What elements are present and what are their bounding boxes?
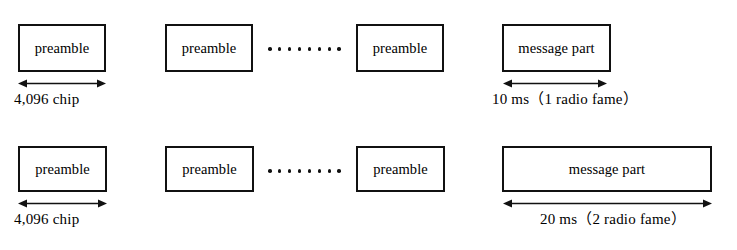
ellipsis-dots-icon bbox=[268, 168, 341, 174]
preamble-box-label: preamble bbox=[182, 161, 237, 176]
preamble-box-label: preamble bbox=[182, 40, 237, 55]
preamble-box: preamble bbox=[356, 146, 445, 192]
preamble-box: preamble bbox=[165, 146, 254, 192]
preamble-box-label: preamble bbox=[35, 161, 90, 176]
message-part-box-label: message part bbox=[569, 161, 646, 176]
double-arrow-icon bbox=[503, 198, 712, 209]
ellipsis-dots-icon bbox=[268, 46, 341, 52]
message-dimension-label: 20 ms（2 radio fame） bbox=[540, 212, 686, 227]
timing-row-1: preamble preamble preamble message part bbox=[0, 0, 737, 125]
message-part-box: message part bbox=[502, 146, 712, 192]
preamble-box: preamble bbox=[356, 24, 444, 72]
preamble-box-label: preamble bbox=[373, 40, 428, 55]
preamble-box: preamble bbox=[18, 146, 107, 192]
preamble-dimension-label: 4,096 chip bbox=[14, 212, 79, 227]
preamble-box-label: preamble bbox=[373, 161, 428, 176]
double-arrow-icon bbox=[18, 78, 106, 89]
timing-row-2: preamble preamble preamble message part bbox=[0, 122, 737, 250]
message-part-box: message part bbox=[502, 24, 611, 72]
double-arrow-icon bbox=[503, 78, 607, 89]
preamble-dimension-label: 4,096 chip bbox=[14, 92, 79, 107]
preamble-box: preamble bbox=[165, 24, 253, 72]
preamble-box: preamble bbox=[18, 24, 106, 72]
preamble-message-timing-diagram: preamble preamble preamble message part bbox=[0, 0, 737, 250]
double-arrow-icon bbox=[18, 198, 107, 209]
message-part-box-label: message part bbox=[518, 40, 595, 55]
preamble-box-label: preamble bbox=[35, 40, 90, 55]
message-dimension-label: 10 ms（1 radio fame） bbox=[492, 92, 638, 107]
